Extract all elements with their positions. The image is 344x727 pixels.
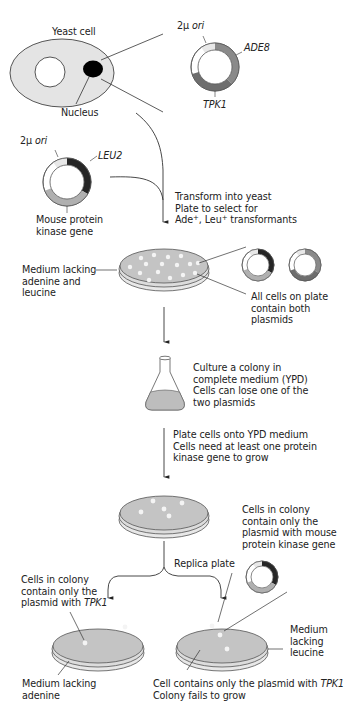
- nucleus: [83, 61, 103, 78]
- plasmid-leu2-mouse-pk: [43, 150, 97, 213]
- plate-right-note: Cells in colony contain only the plasmid…: [242, 504, 337, 550]
- plate-left-medium-label: Medium lacking adenine: [22, 678, 96, 701]
- arrow-from-cell: [136, 113, 163, 222]
- plasmid-leu2-only: [246, 561, 278, 593]
- arrow-from-plasmid: [110, 177, 163, 200]
- plate1-note: All cells on plate contain both plasmids: [251, 291, 328, 326]
- replica-plate-label: Replica plate: [174, 558, 235, 570]
- plate-left-note: Cells in colony contain only the plasmid…: [21, 574, 108, 609]
- plate-right-fail-note: Cell contains only the plasmid with TPK1…: [153, 678, 344, 701]
- yeast-cell: [10, 34, 163, 112]
- plate1-medium-label: Medium lacking adenine and leucine: [22, 264, 96, 299]
- culture-flask: [146, 356, 185, 410]
- yeast-cell-title: Yeast cell: [52, 26, 96, 38]
- vacuole: [35, 57, 65, 87]
- tpk1-label: TPK1: [203, 99, 227, 111]
- ori-label-top: 2μ ori: [177, 20, 204, 32]
- ade8-label: ADE8: [244, 42, 270, 54]
- step-culture-text: Culture a colony in complete medium (YPD…: [193, 362, 308, 408]
- mouse-pk-label: Mouse protein kinase gene: [36, 214, 103, 237]
- plate-right-medium-label: Medium lacking leucine: [290, 624, 328, 659]
- plate-selective: [96, 247, 246, 294]
- nucleus-label: Nucleus: [61, 107, 98, 119]
- plate-ypd: [119, 496, 209, 538]
- plate-lacking-adenine: [52, 612, 144, 675]
- ori-label-leu2: 2μ ori: [20, 135, 47, 147]
- plasmid-tpk1-ade8: [191, 36, 242, 97]
- plasmid-pair: [242, 249, 321, 281]
- step-transform-text: Transform into yeast Plate to select for…: [175, 191, 297, 226]
- step-plate-ypd-text: Plate cells onto YPD medium Cells need a…: [173, 429, 317, 464]
- leu2-label: LEU2: [98, 150, 122, 162]
